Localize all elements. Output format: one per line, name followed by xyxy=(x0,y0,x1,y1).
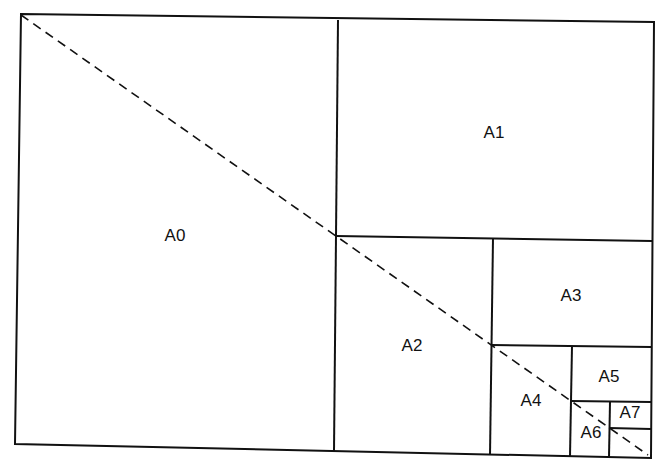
label-a0: A0 xyxy=(165,226,186,246)
label-a1: A1 xyxy=(484,123,505,143)
label-a2: A2 xyxy=(402,336,423,356)
a1-bottom-divider xyxy=(336,236,652,241)
label-a6: A6 xyxy=(581,423,602,443)
label-a7: A7 xyxy=(620,403,641,423)
label-a5: A5 xyxy=(599,367,620,387)
paper-sizes-diagram xyxy=(0,0,665,466)
label-a3: A3 xyxy=(561,286,582,306)
a6-a7-divider xyxy=(609,402,610,457)
a5-bottom-divider xyxy=(571,401,651,402)
label-a4: A4 xyxy=(521,391,542,411)
a7-bottom-divider xyxy=(609,428,651,429)
